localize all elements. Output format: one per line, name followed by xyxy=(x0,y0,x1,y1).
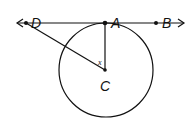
label-b: B xyxy=(162,15,171,31)
point-a xyxy=(103,21,108,26)
point-c xyxy=(103,68,107,72)
label-c: C xyxy=(100,78,111,94)
angle-label-x: x xyxy=(97,58,102,67)
geometry-diagram: D A B C x xyxy=(0,0,192,123)
point-b xyxy=(154,21,158,25)
point-d xyxy=(24,21,28,25)
label-a: A xyxy=(110,15,120,31)
label-d: D xyxy=(31,15,41,31)
